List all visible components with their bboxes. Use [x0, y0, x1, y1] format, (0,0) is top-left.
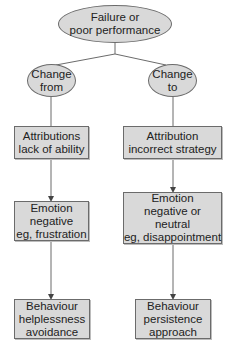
- emotion-right-line-3: neutral: [155, 218, 190, 231]
- root-line-2: poor performance: [70, 24, 161, 37]
- behaviour-left-line-1: Behaviour: [26, 300, 78, 313]
- change-to-line-2: to: [168, 81, 178, 94]
- attribution-right-line-2: incorrect strategy: [128, 143, 216, 156]
- emotion-right-line-1: Emotion: [151, 192, 193, 205]
- behaviour-right-line-3: approach: [149, 326, 197, 339]
- behaviour-left-line-2: helplessness: [19, 313, 85, 326]
- attribution-left-line-2: lack of ability: [19, 143, 85, 156]
- attribution-left-line-1: Attributions: [23, 130, 81, 143]
- behaviour-left-line-3: avoidance: [26, 326, 78, 339]
- emotion-box-left: Emotion negative eg, frustration: [14, 201, 89, 241]
- emotion-right-line-2: negative or: [144, 205, 201, 218]
- emotion-box-right: Emotion negative or neutral eg, disappoi…: [123, 192, 222, 244]
- change-to-line-1: Change: [152, 68, 192, 81]
- change-from-line-2: from: [40, 81, 63, 94]
- emotion-left-line-1: Emotion: [30, 202, 72, 215]
- change-from-node: Change from: [27, 64, 76, 97]
- emotion-left-line-2: negative: [30, 215, 73, 228]
- emotion-left-line-3: eg, frustration: [16, 228, 86, 241]
- behaviour-right-line-2: persistence: [144, 313, 203, 326]
- behaviour-box-left: Behaviour helplessness avoidance: [14, 299, 90, 339]
- attribution-right-line-1: Attribution: [147, 130, 199, 143]
- root-node-failure: Failure or poor performance: [58, 5, 172, 43]
- root-line-1: Failure or: [91, 11, 140, 24]
- attribution-box-right: Attribution incorrect strategy: [123, 126, 222, 159]
- change-from-line-1: Change: [31, 68, 71, 81]
- change-to-node: Change to: [148, 64, 197, 97]
- emotion-right-line-4: eg, disappointment: [124, 231, 221, 244]
- behaviour-box-right: Behaviour persistence approach: [135, 299, 211, 339]
- behaviour-right-line-1: Behaviour: [147, 300, 199, 313]
- attribution-box-left: Attributions lack of ability: [14, 126, 89, 159]
